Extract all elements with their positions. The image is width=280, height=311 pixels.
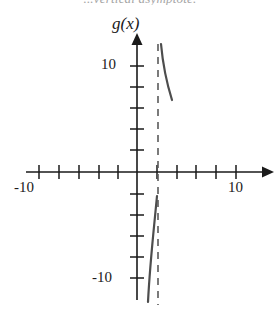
y-axis-group	[130, 33, 144, 300]
y-axis-label-positive-ten: 10	[101, 56, 116, 73]
y-axis-label-negative-ten: -10	[92, 269, 112, 286]
graph-figure: ...vertical asymptote. g(x)	[0, 0, 280, 311]
coordinate-plane	[0, 0, 280, 311]
x-axis-label-positive-ten: 10	[228, 179, 243, 196]
curve-lower-branch	[148, 196, 157, 302]
clipped-caption-text: ...vertical asymptote.	[0, 0, 280, 5]
function-label: g(x)	[112, 14, 139, 34]
x-axis-label-negative-ten: -10	[14, 179, 34, 196]
x-axis-arrow-icon	[262, 167, 274, 178]
y-axis-arrow-icon	[132, 33, 143, 45]
curve-upper-branch	[161, 44, 172, 100]
x-axis-group	[26, 165, 274, 179]
